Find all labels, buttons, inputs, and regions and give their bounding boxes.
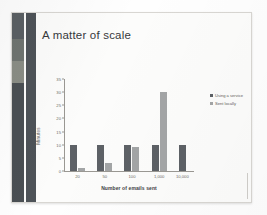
x-axis-line [64, 171, 194, 172]
legend-label: Using a service [215, 93, 243, 98]
legend-swatch [210, 102, 213, 105]
scanned-page: A matter of scale Minutes 05101520253035… [0, 0, 267, 215]
band-segment [12, 39, 24, 61]
slide-accent-band-outer [12, 13, 24, 202]
x-axis-tick-label: 50 [102, 174, 107, 179]
y-axis-tick-label: 15 [56, 129, 61, 134]
bar [179, 145, 186, 171]
legend-label: Sent locally [215, 101, 236, 106]
x-axis-title: Number of emails sent [64, 185, 194, 191]
band-segment [12, 83, 24, 202]
bar [152, 145, 159, 171]
x-axis-tick-label: 1,000 [154, 174, 164, 179]
slide-title: A matter of scale [42, 29, 131, 41]
bar [124, 145, 131, 171]
bar-chart: Minutes 05101520253035 20501001,00010,00… [40, 73, 245, 199]
chart-legend: Using a serviceSent locally [210, 93, 252, 109]
y-axis-tick-label: 25 [56, 103, 61, 108]
x-axis-tick-label: 20 [75, 174, 80, 179]
y-axis-tick-label: 35 [56, 77, 61, 82]
bar-group [152, 79, 167, 171]
y-axis-tick-label: 20 [56, 116, 61, 121]
band-segment [12, 61, 24, 83]
y-axis-tick-label: 10 [56, 142, 61, 147]
y-axis-tick-label: 5 [59, 155, 61, 160]
bar-group [70, 79, 85, 171]
x-axis-tick-label: 100 [128, 174, 135, 179]
band-segment [12, 13, 24, 39]
bar [70, 145, 77, 171]
bar [105, 163, 112, 171]
plot-area: 05101520253035 20501001,00010,000 [64, 79, 192, 171]
bar [132, 147, 139, 171]
bar [78, 168, 85, 171]
slide-accent-band-inner [26, 13, 36, 202]
x-axis-tick-label: 10,000 [176, 174, 189, 179]
legend-swatch [210, 94, 213, 97]
page-edge-mark [247, 173, 248, 199]
y-axis-tick-label: 0 [59, 169, 61, 174]
legend-item: Sent locally [210, 101, 252, 106]
bar-group [124, 79, 139, 171]
presentation-slide: A matter of scale Minutes 05101520253035… [11, 12, 252, 203]
bar-group [179, 79, 186, 171]
legend-item: Using a service [210, 93, 252, 98]
y-axis-title: Minutes [36, 127, 41, 145]
bar [160, 92, 167, 171]
bar [97, 145, 104, 171]
bar-group [97, 79, 112, 171]
bar-groups [64, 79, 192, 171]
y-axis-tick-label: 30 [56, 90, 61, 95]
band-segment [26, 13, 36, 202]
